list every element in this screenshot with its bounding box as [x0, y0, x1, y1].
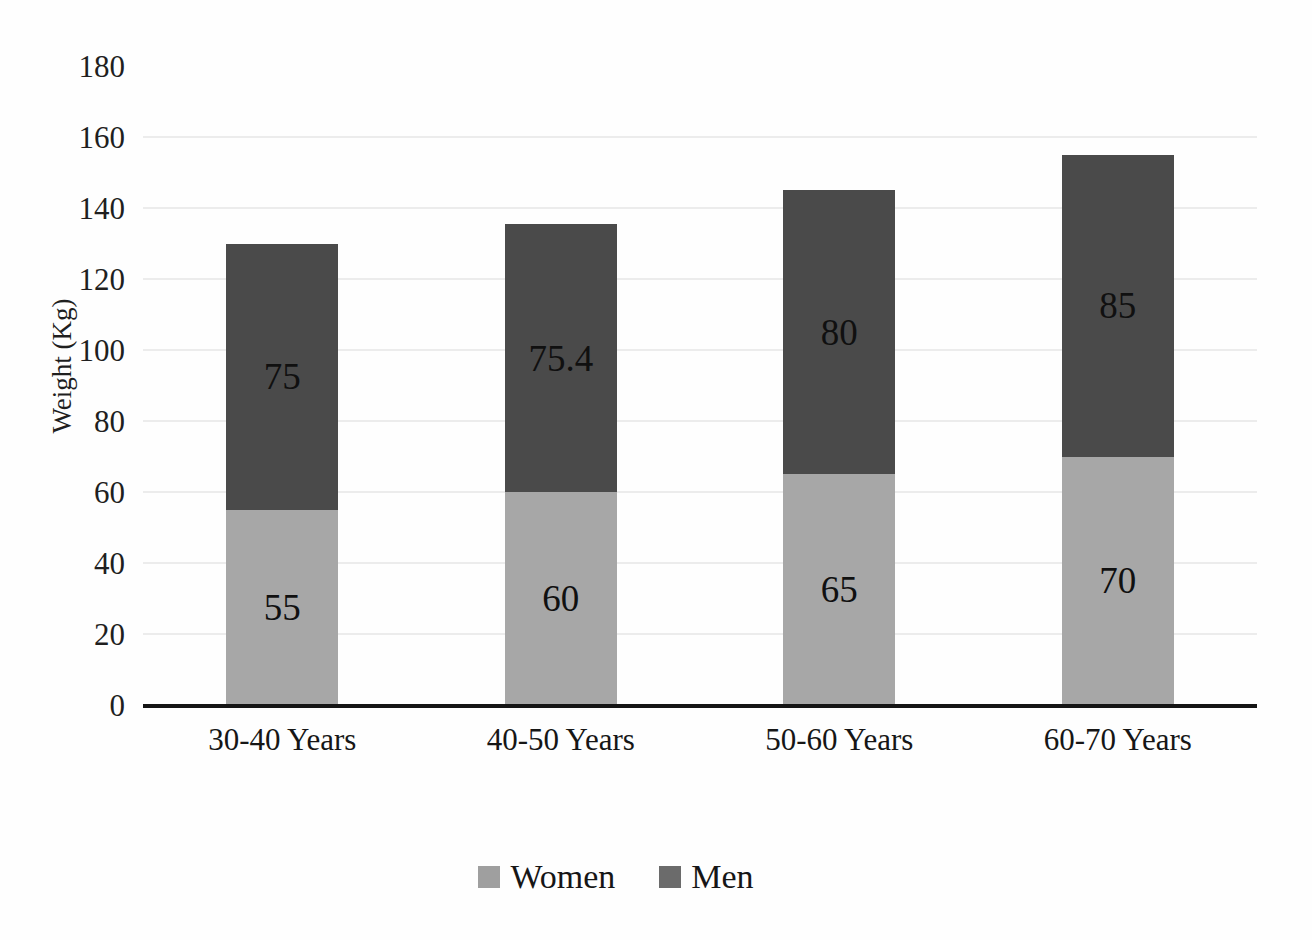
bar-value-label: 55 — [264, 586, 301, 629]
legend-swatch-men — [659, 866, 681, 888]
bar-value-label: 85 — [1099, 284, 1136, 327]
stacked-bar-chart: Weight (Kg) 020406080100120140160180 557… — [0, 0, 1312, 940]
bar-segment-men: 85 — [1062, 155, 1174, 457]
legend-label: Women — [510, 858, 615, 896]
y-axis-tick-label: 40 — [35, 548, 125, 579]
legend-item-men: Men — [659, 858, 753, 896]
legend-swatch-women — [478, 866, 500, 888]
gridline — [143, 136, 1257, 138]
bar-segment-women: 70 — [1062, 457, 1174, 706]
bar-segment-women: 65 — [783, 474, 895, 705]
y-axis-tick-label: 20 — [35, 619, 125, 650]
bar-segment-men: 75.4 — [505, 224, 617, 492]
bar-segment-men: 80 — [783, 190, 895, 474]
y-axis-tick-label: 120 — [35, 264, 125, 295]
x-axis-label: 30-40 Years — [208, 722, 356, 758]
bar-segment-men: 75 — [226, 244, 338, 510]
y-axis-tick-label: 100 — [35, 335, 125, 366]
y-axis-tick-label: 60 — [35, 477, 125, 508]
bar-segment-women: 60 — [505, 492, 617, 705]
y-axis-tick-label: 0 — [35, 690, 125, 721]
bar-value-label: 80 — [821, 311, 858, 354]
x-axis-label: 60-70 Years — [1044, 722, 1192, 758]
bar-value-label: 70 — [1099, 559, 1136, 602]
x-axis-label: 50-60 Years — [765, 722, 913, 758]
bar-value-label: 60 — [542, 577, 579, 620]
x-axis-label: 40-50 Years — [487, 722, 635, 758]
legend-item-women: Women — [478, 858, 615, 896]
x-axis-line — [143, 704, 1257, 708]
y-axis-tick-label: 140 — [35, 193, 125, 224]
bar-value-label: 65 — [821, 568, 858, 611]
y-axis-tick-label: 180 — [35, 51, 125, 82]
legend: WomenMen — [0, 858, 1232, 896]
bar-value-label: 75.4 — [528, 337, 593, 380]
legend-label: Men — [691, 858, 753, 896]
bar-value-label: 75 — [264, 355, 301, 398]
bar-segment-women: 55 — [226, 510, 338, 705]
y-axis-tick-label: 160 — [35, 122, 125, 153]
y-axis-tick-label: 80 — [35, 406, 125, 437]
scanned-chart-page: Weight (Kg) 020406080100120140160180 557… — [0, 0, 1312, 940]
